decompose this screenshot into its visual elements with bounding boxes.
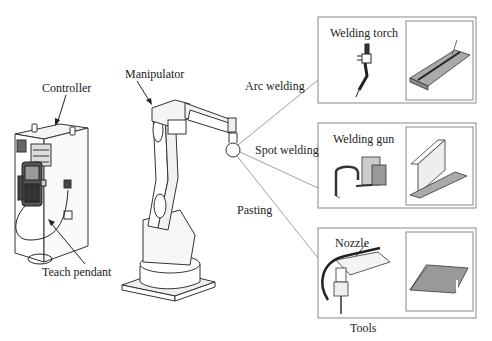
arc-weld-workpiece xyxy=(410,40,470,90)
arc-welding-label: Arc welding xyxy=(245,80,305,92)
teach-pendant-label: Teach pendant xyxy=(42,266,111,278)
pasting-workpiece xyxy=(410,264,468,293)
spot-weld-workpiece xyxy=(410,140,467,198)
spot-welding-label: Spot welding xyxy=(255,144,319,156)
nozzle-label: Nozzle xyxy=(335,237,369,249)
welding-gun-illustration xyxy=(336,157,386,198)
connector-lines xyxy=(237,80,318,258)
welding-gun-label: Welding gun xyxy=(333,133,394,145)
pasting-label: Pasting xyxy=(237,204,272,216)
welding-torch-label: Welding torch xyxy=(330,27,398,39)
robot-system-diagram xyxy=(0,0,492,341)
nozzle-illustration xyxy=(322,248,390,314)
tools-caption: Tools xyxy=(350,322,377,334)
controller-label: Controller xyxy=(42,82,91,94)
manipulator-label: Manipulator xyxy=(125,68,184,80)
manipulator-robot xyxy=(122,100,240,301)
welding-torch-illustration xyxy=(356,44,371,97)
